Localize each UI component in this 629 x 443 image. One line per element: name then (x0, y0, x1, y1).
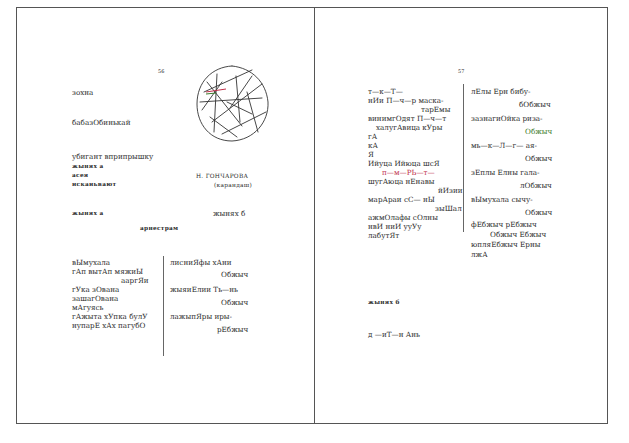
heading-babaz: бабазОбинькай (72, 118, 130, 127)
verse-line: винимгОдят П—ч—т (368, 114, 446, 123)
heading-zokhna: зохна (72, 88, 93, 97)
verse-line: жыяиЕлии Ть—нь (170, 285, 238, 294)
verse-line: Ийуца Ийюца шсЯ (368, 159, 440, 168)
block-line: искаиьвают (72, 180, 116, 189)
verse-line: зашагОвана (72, 294, 118, 303)
verse-line: зЕплы Елны гала- (471, 168, 539, 177)
verse-line: ааргЯи (121, 276, 149, 285)
verse-line: Обжыч (525, 154, 552, 163)
verse-line: гАп вытАп мяжиЫ (72, 267, 143, 276)
verse-line: Обжыч (221, 270, 248, 279)
verse-line-green: Обжыч (525, 127, 552, 136)
column-rule (163, 256, 164, 356)
verse-line: лисниЯфы хАни (170, 258, 231, 267)
page-gutter (314, 7, 315, 424)
illustration-caption-medium: (карандаш) (214, 181, 252, 190)
book-spread-frame (16, 7, 608, 424)
verse-line: вЫмухала (72, 258, 110, 267)
verse-line: вЫмухала сычу- (471, 195, 533, 204)
block-line: убигант вприпрышку (72, 152, 153, 161)
verse-line: Я (368, 150, 374, 159)
block-line: жынях а (72, 162, 104, 171)
verse-line: гАжыта хУпка булУ (72, 312, 148, 321)
illustration-caption-name: Н. ГОНЧАРОВА (196, 172, 248, 181)
verse-line: нупарЕ хАх пагубО (72, 321, 145, 330)
verse-line: лЕлы Ерн бибу- (471, 87, 530, 96)
verse-line: т—к—Т— (368, 87, 403, 96)
verse-line: лжА (471, 250, 488, 259)
verse-line: шугАюца нЕнавы (368, 177, 434, 186)
verse-line: ажмОлафы сОлны (368, 213, 438, 222)
verse-line: кА (368, 141, 378, 150)
closing-line: д —иТ—н Ань (368, 330, 420, 339)
verse-line: фЕбжыч рЕбжыч (471, 220, 537, 229)
subtitle: арнестрам (140, 224, 178, 233)
label-b: жынях б (213, 209, 245, 218)
verse-line: Обжыч Ебжыч (490, 230, 546, 239)
page-number-right: 57 (458, 68, 464, 74)
verse-line: бОбжыч (519, 100, 551, 109)
verse-line: йИзии (438, 186, 463, 195)
verse-line: мь—к—Л—г— ая- (471, 141, 537, 150)
verse-line-red: п—м—РЬ—т— (382, 168, 435, 177)
page-number-left: 56 (158, 68, 164, 74)
column-rule (463, 84, 464, 232)
block-line: асея (72, 171, 88, 180)
verse-line: рЕбжыч (217, 325, 248, 334)
verse-line: лабутЯт (368, 231, 399, 240)
label-b-right: жынях б (368, 298, 400, 307)
verse-line: юпляЕбжыч Ерны (471, 240, 540, 249)
verse-line: халугАвица кУры (376, 123, 442, 132)
verse-line: марАраи сС— нЫ (368, 195, 435, 204)
verse-line: лОбжыч (520, 181, 552, 190)
verse-line: тарЕмы (421, 105, 450, 114)
pencil-drawing-image (192, 62, 272, 144)
label-a: жынях а (72, 209, 104, 218)
verse-line: Обжыч (221, 298, 248, 307)
verse-line: нИи П—ч—р маска- (368, 96, 444, 105)
verse-line: нвИ ниИ ууУу (368, 222, 421, 231)
verse-line: зазнагиОйка риза- (471, 114, 543, 123)
verse-line: мАгуясь (72, 303, 104, 312)
verse-line: гУка зОвана (72, 285, 119, 294)
verse-line: гА (368, 132, 377, 141)
verse-line: зыШал (435, 204, 462, 213)
verse-line: Обжыч (525, 208, 552, 217)
verse-line: лажыпЯры иры- (170, 312, 232, 321)
